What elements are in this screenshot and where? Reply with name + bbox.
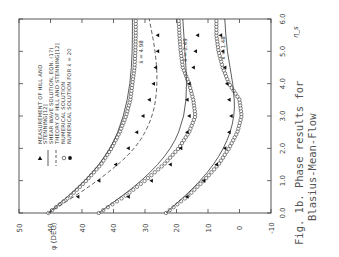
triangle-marker xyxy=(229,114,233,118)
eta-tick-label: 4.0 xyxy=(279,78,287,89)
phi-tick-label: -10 xyxy=(268,222,276,233)
open-circle-marker xyxy=(207,173,210,176)
triangle-marker xyxy=(141,114,145,118)
open-circle-marker xyxy=(215,19,218,22)
phi-tick-label: 20 xyxy=(173,224,181,233)
triangle-marker xyxy=(147,98,151,102)
legend: MEASUREMENT OF HILL ANDSTENNING[12]SHEAR… xyxy=(37,43,72,166)
eta-tick-label: 0.0 xyxy=(279,207,287,218)
open-circle-marker xyxy=(212,168,215,171)
open-circle-marker xyxy=(193,188,196,191)
open-circle-marker xyxy=(168,156,171,159)
triangle-marker xyxy=(187,114,191,118)
open-circle-marker xyxy=(160,165,163,168)
eta-tick-label: 6.0 xyxy=(279,13,287,24)
open-circle-marker xyxy=(143,179,146,182)
open-circle-marker xyxy=(150,173,153,176)
open-circle-marker xyxy=(139,182,142,185)
x-axis-title: η_s xyxy=(292,26,300,38)
phase-chart: 504040403020100-10 0.01.02.03.04.05.06.0… xyxy=(0,0,339,257)
open-circle-marker xyxy=(163,162,166,165)
triangle-marker xyxy=(156,33,160,37)
open-circle-marker xyxy=(174,150,177,153)
triangle-marker xyxy=(193,49,197,53)
eta-tick-label: 2.0 xyxy=(279,143,287,154)
triangle-marker xyxy=(168,163,172,167)
open-circle-marker xyxy=(134,19,137,22)
triangle-marker xyxy=(227,98,231,102)
eta-tick-labels: 0.01.02.03.04.05.06.0 xyxy=(279,13,287,218)
open-circle-marker xyxy=(210,171,213,174)
triangle-marker xyxy=(191,66,195,70)
open-circle-marker xyxy=(177,19,180,22)
curves xyxy=(47,19,243,215)
open-circle-marker xyxy=(153,171,156,174)
legend-open-circle-icon xyxy=(62,156,66,160)
phi-tick-label: 10 xyxy=(205,224,213,233)
triangle-marker xyxy=(154,66,158,70)
figure-caption-line2: Blasius-Mean-Flow xyxy=(306,113,318,221)
triangle-marker xyxy=(227,130,231,134)
open-circle-marker xyxy=(171,153,174,156)
triangle-marker xyxy=(114,163,118,167)
open-circle-marker xyxy=(196,185,199,188)
eta-tick-label: 1.0 xyxy=(279,175,287,186)
open-circle-marker xyxy=(146,176,149,179)
triangle-marker xyxy=(126,146,130,150)
curve-annotations: x̄ = 4.98x̄ = 2.49x̄ = 1.48 xyxy=(138,36,226,64)
open-circle-marker xyxy=(157,168,160,171)
triangle-marker xyxy=(149,179,153,183)
curve-annotation: x̄ = 1.48 xyxy=(220,36,226,60)
phi-tick-label: 30 xyxy=(142,224,150,233)
triangle-marker xyxy=(223,146,227,150)
phi-tick-label: 50 xyxy=(16,224,24,233)
triangle-marker xyxy=(156,49,160,53)
legend-filled-circle-icon xyxy=(68,156,72,160)
curve-annotation: x̄ = 2.49 xyxy=(182,38,188,62)
triangle-marker xyxy=(196,33,200,37)
phi-tick-label: 0 xyxy=(236,226,244,230)
phi-tick-label: 40 xyxy=(79,224,87,233)
figure-caption-line1: Fig. 1b. Phase results for xyxy=(293,81,305,245)
curve-annotation: x̄ = 4.98 xyxy=(138,40,144,64)
triangle-marker xyxy=(135,130,139,134)
y-axis-title: φ (DEG) xyxy=(50,222,58,250)
open-circle-marker xyxy=(199,182,202,185)
legend-label: NUMERICAL SOLUTION FOR x̄ = 20 xyxy=(66,48,72,144)
eta-tick-label: 3.0 xyxy=(279,110,287,121)
legend-triangle-icon xyxy=(38,156,42,160)
eta-tick-label: 5.0 xyxy=(279,46,287,57)
open-circle-marker xyxy=(166,159,169,162)
triangle-marker xyxy=(151,82,155,86)
phi-tick-label: 40 xyxy=(110,224,118,233)
